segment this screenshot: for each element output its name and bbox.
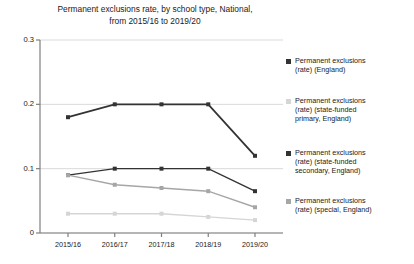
legend-label: Permanent exclusions (rate) (England) <box>295 56 366 74</box>
data-point <box>253 154 257 158</box>
x-tick-label: 2016/17 <box>94 240 136 249</box>
x-tick-label: 2017/18 <box>141 240 183 249</box>
x-tick-label: 2019/20 <box>234 240 276 249</box>
y-tick-label: 0.2 <box>8 99 34 108</box>
series-markers <box>66 102 257 222</box>
data-point <box>66 212 70 216</box>
data-point <box>206 167 210 171</box>
legend-item-1[interactable]: Permanent exclusions (rate) (state-funde… <box>286 96 366 124</box>
x-tick-label: 2018/19 <box>187 240 229 249</box>
series-lines <box>68 104 255 220</box>
y-tick-label: 0 <box>8 228 34 237</box>
data-point <box>253 189 257 193</box>
series-line-0 <box>68 104 255 155</box>
series-line-3 <box>68 175 255 207</box>
data-point <box>66 173 70 177</box>
legend-item-2[interactable]: Permanent exclusions (rate) (state-funde… <box>286 148 366 176</box>
data-point <box>113 183 117 187</box>
axis-ticks <box>36 40 255 237</box>
legend-marker-icon <box>286 151 291 156</box>
legend-item-3[interactable]: Permanent exclusions (rate) (special, En… <box>286 196 372 214</box>
legend-label: Permanent exclusions (rate) (special, En… <box>295 196 372 214</box>
data-point <box>160 102 164 106</box>
legend-item-0[interactable]: Permanent exclusions (rate) (England) <box>286 56 366 74</box>
data-point <box>160 212 164 216</box>
data-point <box>253 218 257 222</box>
data-point <box>206 215 210 219</box>
data-point <box>113 167 117 171</box>
legend-label: Permanent exclusions (rate) (state-funde… <box>295 96 366 124</box>
data-point <box>160 186 164 190</box>
legend-marker-icon <box>286 59 291 64</box>
data-point <box>160 167 164 171</box>
data-point <box>253 205 257 209</box>
data-point <box>66 115 70 119</box>
legend-label: Permanent exclusions (rate) (state-funde… <box>295 148 366 176</box>
data-point <box>206 102 210 106</box>
y-tick-label: 0.1 <box>8 164 34 173</box>
legend-marker-icon <box>286 99 291 104</box>
chart-plot-area <box>0 0 414 264</box>
data-point <box>113 212 117 216</box>
x-tick-label: 2015/16 <box>47 240 89 249</box>
data-point <box>206 189 210 193</box>
data-point <box>113 102 117 106</box>
chart-container: Permanent exclusions rate, by school typ… <box>0 0 414 264</box>
y-tick-label: 0.3 <box>8 35 34 44</box>
legend-marker-icon <box>286 199 291 204</box>
